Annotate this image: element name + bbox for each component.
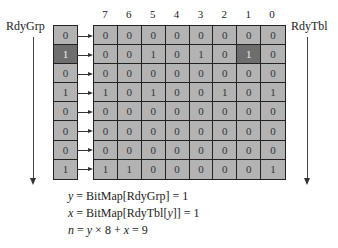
rdytbl-cell: 0 (166, 160, 190, 179)
row-arrow-icon (77, 36, 91, 37)
rdytbl-cell: 0 (142, 26, 166, 45)
rdytbl-cell: 0 (190, 26, 214, 45)
rdygrp-cell: 0 (54, 141, 77, 160)
rdygrp-cell: 1 (54, 160, 77, 179)
rdytbl-cell: 0 (190, 83, 214, 102)
row-arrow-icon (77, 74, 91, 75)
rdytbl-cell: 1 (261, 160, 285, 179)
rdytbl-cell: 0 (237, 141, 261, 160)
rdytbl-cell: 0 (190, 64, 214, 83)
rdytbl-cell: 0 (190, 160, 214, 179)
rdytbl-cell: 0 (166, 141, 190, 160)
rdytbl-cell: 0 (190, 102, 214, 121)
rdytbl-cell: 0 (190, 141, 214, 160)
rdygrp-cell: 1 (54, 45, 77, 64)
rdytbl-cell: 0 (213, 141, 237, 160)
rdytbl-cell: 0 (142, 160, 166, 179)
rdytbl-cell: 0 (237, 102, 261, 121)
rdytbl-cell: 0 (118, 26, 142, 45)
rdytbl-cell: 0 (213, 45, 237, 64)
rdytbl-cell: 0 (213, 102, 237, 121)
rdytbl-cell: 0 (213, 64, 237, 83)
rdytbl-cell: 0 (142, 102, 166, 121)
rdytbl-cell: 0 (237, 83, 261, 102)
row-arrow-icon (77, 169, 91, 170)
rdytbl-cell: 0 (166, 83, 190, 102)
rdytbl-cell: 1 (94, 160, 118, 179)
column-header: 0 (260, 8, 284, 20)
rdytbl-cell: 0 (261, 102, 285, 121)
rdytbl-cell: 0 (261, 64, 285, 83)
rdygrp-cell: 0 (54, 64, 77, 83)
rdytbl-cell: 0 (166, 64, 190, 83)
rdytbl-cell: 0 (213, 160, 237, 179)
rdygrp-cell: 0 (54, 26, 77, 45)
rdytbl-cell: 0 (118, 64, 142, 83)
rdytbl-cell: 1 (190, 45, 214, 64)
rdytbl-grid: 0000000000101010000000001010010100000000… (93, 25, 286, 180)
rdygrp-cell: 0 (54, 102, 77, 121)
rdygrp-cell: 0 (54, 121, 77, 140)
rdygrp-column: 01010001 (53, 25, 78, 180)
bit-column-headers: 76543210 (93, 8, 284, 20)
rdytbl-cell: 1 (261, 83, 285, 102)
rdytbl-cell: 0 (142, 121, 166, 140)
column-header: 7 (93, 8, 117, 20)
rdytbl-cell: 0 (118, 83, 142, 102)
rdytbl-cell: 0 (118, 121, 142, 140)
formula-y: y = BitMap[RdyGrp] = 1 (68, 189, 188, 204)
rdytbl-cell: 0 (118, 141, 142, 160)
rdytbl-cell: 0 (213, 26, 237, 45)
formula-n: n = y × 8 + x = 9 (68, 223, 148, 238)
column-header: 1 (236, 8, 260, 20)
rdytbl-cell: 0 (190, 121, 214, 140)
rdygrp-label: RdyGrp (6, 19, 45, 34)
rdytbl-cell: 1 (237, 45, 261, 64)
rdytbl-cell: 0 (94, 102, 118, 121)
rdytbl-cell: 0 (261, 141, 285, 160)
row-arrow-icon (77, 55, 91, 56)
rdytbl-cell: 0 (166, 45, 190, 64)
rdygrp-down-arrow-icon (30, 178, 36, 185)
rdytbl-cell: 0 (237, 160, 261, 179)
row-arrow-icon (77, 131, 91, 132)
rdytbl-cell: 1 (142, 83, 166, 102)
rdytbl-cell: 0 (166, 102, 190, 121)
rdytbl-cell: 0 (237, 121, 261, 140)
rdytbl-cell: 0 (237, 26, 261, 45)
column-header: 5 (141, 8, 165, 20)
rdytbl-cell: 0 (261, 45, 285, 64)
row-arrow-icon (77, 112, 91, 113)
rdygrp-cell: 1 (54, 83, 77, 102)
rdytbl-cell: 0 (142, 141, 166, 160)
column-header: 6 (117, 8, 141, 20)
column-header: 3 (189, 8, 213, 20)
rdytbl-cell: 0 (261, 26, 285, 45)
rdytbl-cell: 0 (118, 45, 142, 64)
rdytbl-cell: 0 (94, 26, 118, 45)
rdytbl-cell: 0 (166, 26, 190, 45)
rdytbl-label: RdyTbl (291, 19, 328, 34)
rdytbl-cell: 0 (94, 45, 118, 64)
rdytbl-cell: 0 (237, 64, 261, 83)
rdytbl-cell: 1 (142, 45, 166, 64)
rdytbl-cell: 0 (213, 121, 237, 140)
rdytbl-cell: 0 (142, 64, 166, 83)
rdytbl-cell: 1 (94, 83, 118, 102)
rdytbl-cell: 0 (94, 121, 118, 140)
column-header: 4 (165, 8, 189, 20)
rdytbl-cell: 1 (118, 160, 142, 179)
rdygrp-arrow-line (33, 37, 34, 180)
rdytbl-cell: 0 (166, 121, 190, 140)
rdytbl-cell: 1 (213, 83, 237, 102)
rdytbl-down-arrow-icon (304, 178, 310, 185)
rdytbl-cell: 0 (261, 121, 285, 140)
row-arrow-icon (77, 93, 91, 94)
rdytbl-cell: 0 (94, 141, 118, 160)
formula-x: x = BitMap[RdyTbl[y]] = 1 (68, 206, 200, 221)
rdytbl-cell: 0 (118, 102, 142, 121)
rdytbl-cell: 0 (94, 64, 118, 83)
column-header: 2 (212, 8, 236, 20)
rdytbl-arrow-line (307, 37, 308, 180)
row-arrow-icon (77, 150, 91, 151)
